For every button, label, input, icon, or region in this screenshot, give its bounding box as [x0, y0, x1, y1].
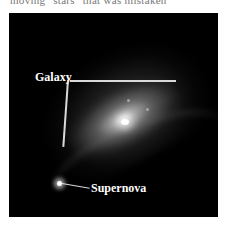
caption-fragment: moving "stars" that was mistaken — [10, 0, 167, 6]
star-knot — [146, 108, 149, 111]
galaxy-label: Galaxy — [35, 70, 72, 85]
supernova-label: Supernova — [91, 181, 146, 196]
galaxy-leader-line-horizontal — [70, 80, 176, 82]
galaxy-photo: Galaxy Supernova — [9, 13, 218, 217]
galaxy-core — [121, 119, 129, 125]
star-knot — [127, 99, 130, 102]
